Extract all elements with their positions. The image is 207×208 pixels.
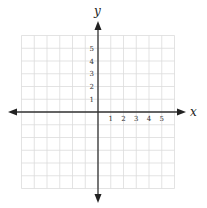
x-tick-labels: 12345 <box>109 115 164 123</box>
y-tick-labels: 12345 <box>90 45 95 104</box>
y-tick-label: 3 <box>90 70 94 78</box>
y-axis-down-arrow-icon <box>95 194 102 203</box>
x-tick-label: 1 <box>109 115 113 123</box>
x-axis-left-arrow-icon <box>8 109 17 116</box>
y-axis-label: y <box>93 4 101 18</box>
x-tick-label: 4 <box>147 115 152 123</box>
y-tick-label: 2 <box>90 83 94 91</box>
x-tick-label: 2 <box>121 115 125 123</box>
x-tick-label: 5 <box>160 115 164 123</box>
coordinate-plane: 12345 12345 x y <box>0 0 207 208</box>
y-tick-label: 5 <box>90 45 94 53</box>
x-tick-label: 3 <box>134 115 138 123</box>
x-axis-label: x <box>190 105 197 119</box>
y-tick-label: 1 <box>90 96 94 104</box>
y-axis-up-arrow-icon <box>95 21 102 30</box>
x-axis-right-arrow-icon <box>177 109 186 116</box>
y-tick-label: 4 <box>90 58 95 66</box>
